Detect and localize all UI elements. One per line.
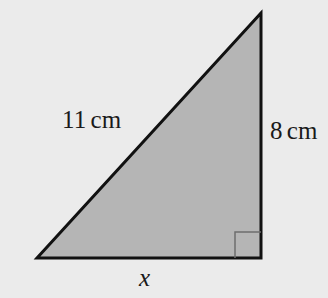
base-length-label: x: [139, 265, 150, 290]
triangle-graphic: [0, 0, 328, 298]
hypotenuse-length-value: 11: [62, 106, 86, 133]
hypotenuse-length-unit: cm: [90, 106, 121, 133]
hypotenuse-length-label: 11cm: [62, 107, 121, 132]
vertical-leg-length-label: 8cm: [270, 118, 318, 143]
base-length-value: x: [139, 264, 150, 291]
vertical-leg-length-value: 8: [270, 117, 283, 144]
vertical-leg-length-unit: cm: [287, 117, 318, 144]
right-triangle-figure: 11cm 8cm x: [0, 0, 328, 298]
